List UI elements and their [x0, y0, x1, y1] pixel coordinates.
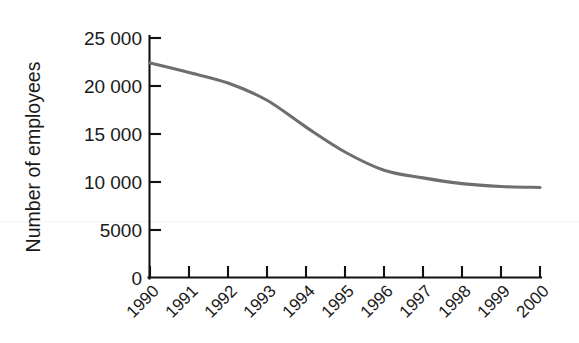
- y-tick-label-20000: 20 000: [84, 76, 142, 97]
- y-tick-label-25000: 25 000: [84, 28, 142, 49]
- y-tick-label-5000: 5000: [100, 220, 142, 241]
- y-tick-label-0: 0: [131, 268, 142, 289]
- y-axis-title: Number of employees: [22, 61, 44, 252]
- y-axis-title-group: Number of employees: [22, 61, 44, 252]
- y-tick-label-15000: 15 000: [84, 124, 142, 145]
- chart-svg: Number of employees 25 000 20 000 15 000…: [0, 0, 579, 343]
- y-tick-label-10000: 10 000: [84, 172, 142, 193]
- line-chart-figure: Number of employees 25 000 20 000 15 000…: [0, 0, 579, 343]
